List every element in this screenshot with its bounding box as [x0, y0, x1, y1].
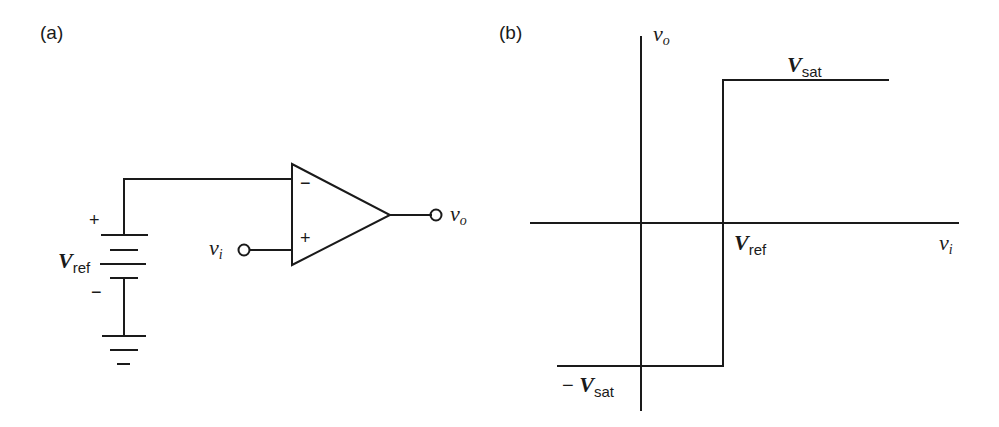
vsat-negative-label: − Vsat [562, 374, 614, 399]
comparator-circuit [101, 164, 442, 364]
y-axis-label: vo [653, 23, 670, 48]
output-terminal [431, 210, 442, 221]
input-label: vi [209, 237, 223, 262]
opamp-noninverting-sign: + [300, 229, 311, 247]
opamp-inverting-sign: − [300, 174, 311, 192]
vsat-positive-label: Vsat [787, 54, 822, 79]
input-terminal [239, 245, 250, 256]
wire-vref-to-inverting [124, 179, 292, 235]
vref-axis-label: Vref [734, 232, 766, 257]
battery-plus-sign: + [89, 211, 100, 229]
output-label: vo [450, 203, 467, 228]
battery-minus-sign: − [91, 283, 102, 301]
panel-label-b: (b) [499, 23, 522, 42]
panel-label-a: (a) [40, 23, 63, 42]
x-axis-label: vi [939, 232, 953, 257]
transfer-characteristic [531, 37, 958, 410]
figure-canvas [0, 0, 999, 427]
vref-label: Vref [58, 250, 90, 275]
